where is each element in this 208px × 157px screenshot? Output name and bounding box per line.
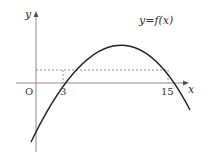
x-tick-3: 3 <box>60 86 66 97</box>
x-axis-label: x <box>188 83 195 96</box>
y-axis-arrow-icon <box>34 11 39 17</box>
x-tick-15: 15 <box>161 86 174 97</box>
function-graph: y=f(x) y x O 3 15 <box>0 0 208 157</box>
y-axis-label: y <box>24 8 32 21</box>
origin-label: O <box>25 86 33 97</box>
curve-label: y=f(x) <box>138 14 173 27</box>
